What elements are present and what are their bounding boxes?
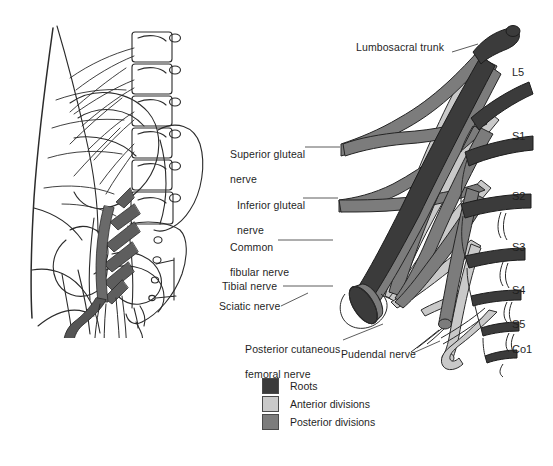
legend-label-anterior-divisions: Anterior divisions xyxy=(290,398,370,410)
coccyx xyxy=(136,322,143,338)
label-line-2: nerve xyxy=(230,173,257,185)
sacral-plexus-schematic: .root{fill:#3b3b3b;stroke:#1d1d1d;stroke… xyxy=(275,8,545,378)
label-line-1: Posterior cutaneous xyxy=(245,343,340,355)
anatomical-illustration-panel xyxy=(8,8,223,338)
vertebra-detail xyxy=(138,36,166,203)
ilium-edge2 xyxy=(74,137,136,156)
label-lumbosacral-trunk: Lumbosacral trunk xyxy=(356,41,444,54)
label-root-co1: Co1 xyxy=(512,343,532,355)
legend-swatch-posterior-divisions xyxy=(262,414,279,430)
legend-label-roots: Roots xyxy=(290,380,317,392)
label-tibial-nerve: Tibial nerve xyxy=(222,280,277,293)
label-root-s2: S2 xyxy=(512,190,525,202)
figure-canvas: .root{fill:#3b3b3b;stroke:#1d1d1d;stroke… xyxy=(0,0,553,466)
abdomen-contour xyxy=(34,208,82,240)
label-root-s1: S1 xyxy=(512,130,525,142)
sacral-plexus-shaded xyxy=(104,188,140,304)
lumbar-vertebrae xyxy=(131,32,173,224)
lumbar-plexus-strands xyxy=(44,48,134,216)
label-root-s3: S3 xyxy=(512,241,525,253)
label-line-1: Superior gluteal xyxy=(230,148,305,160)
label-sciatic-nerve: Sciatic nerve xyxy=(219,300,280,313)
legend-item-anterior-divisions: Anterior divisions xyxy=(262,395,375,412)
legend-label-posterior-divisions: Posterior divisions xyxy=(290,416,375,428)
label-root-s4: S4 xyxy=(512,284,525,296)
legend: Roots Anterior divisions Posterior divis… xyxy=(262,377,375,431)
transverse-processes xyxy=(170,34,181,202)
groin-contour xyxy=(32,269,100,333)
torso-contour xyxy=(31,28,53,318)
ilium-far xyxy=(154,125,203,231)
label-line-2: fibular nerve xyxy=(230,266,289,278)
label-root-s5: S5 xyxy=(512,318,525,330)
sacroiliac-line xyxy=(160,140,166,224)
label-line-1: Common xyxy=(230,241,273,253)
legend-swatch-roots xyxy=(262,378,279,394)
sacral-foramina xyxy=(134,237,162,328)
posterior-cutaneous-femoral-nerve-cut-end xyxy=(439,319,452,329)
label-line-1: Inferior gluteal xyxy=(237,199,305,211)
label-root-l5: L5 xyxy=(512,66,524,78)
flank-contour xyxy=(57,26,98,233)
label-pudendal-nerve: Pudendal nerve xyxy=(341,348,416,361)
legend-swatch-anterior-divisions xyxy=(262,396,279,412)
legend-item-roots: Roots xyxy=(262,377,375,394)
root-lumbosacral-trunk-end xyxy=(506,26,520,37)
psoas-border xyxy=(89,218,94,300)
legend-item-posterior-divisions: Posterior divisions xyxy=(262,413,375,430)
